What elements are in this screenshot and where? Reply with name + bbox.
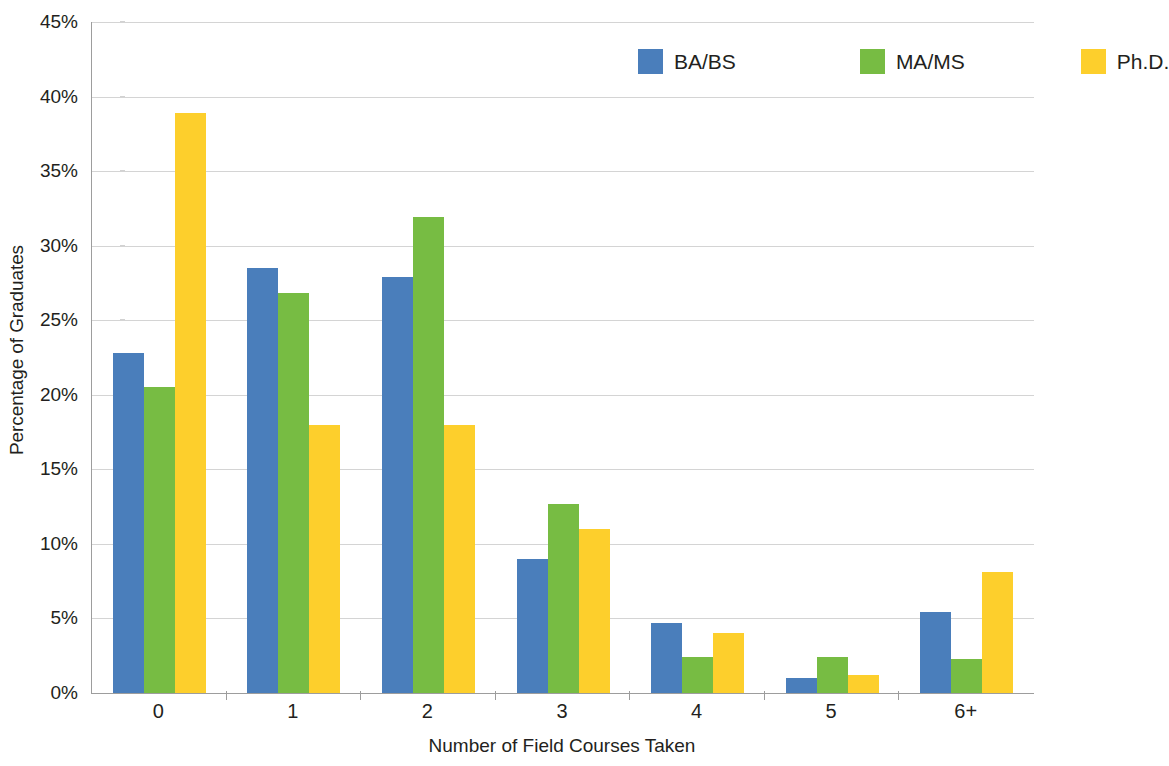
x-axis-tick-mark (629, 691, 630, 700)
bar-group (382, 22, 475, 693)
bar (817, 657, 848, 693)
y-axis-tick-label: 30% (40, 235, 78, 257)
x-axis-tick-label: 3 (556, 700, 567, 723)
x-axis-title: Number of Field Courses Taken (91, 735, 1033, 757)
bar (413, 217, 444, 693)
bar (144, 387, 175, 693)
legend-item: BA/BS (638, 49, 736, 74)
y-axis-title: Percentage of Graduates (0, 0, 34, 700)
bar (920, 612, 951, 693)
bar-group (786, 22, 879, 693)
x-axis-tick-mark (226, 691, 227, 700)
x-axis-tick-labels: 0123456+ (91, 700, 1033, 736)
x-axis-tick-mark (495, 691, 496, 700)
y-axis-tick-label: 15% (40, 458, 78, 480)
legend-item: Ph.D. (1081, 49, 1169, 74)
bar-group (920, 22, 1013, 693)
legend-label: MA/MS (896, 50, 965, 74)
y-axis-tick-label: 10% (40, 533, 78, 555)
bar (382, 277, 413, 693)
bar (982, 572, 1013, 693)
bar (951, 659, 982, 693)
bars-layer (92, 22, 1034, 693)
legend-swatch (1081, 49, 1106, 74)
y-axis-tick-label: 5% (51, 607, 78, 629)
bar-group (113, 22, 206, 693)
plot-area (91, 22, 1034, 694)
y-axis-tick-label: 0% (51, 682, 78, 704)
y-axis-tick-label: 45% (40, 11, 78, 33)
bar (247, 268, 278, 693)
bar (175, 113, 206, 693)
legend: BA/BSMA/MSPh.D. (638, 49, 1169, 74)
bar (579, 529, 610, 693)
y-axis-tick-labels: 0%5%10%15%20%25%30%35%40%45% (34, 0, 86, 766)
bar (651, 623, 682, 693)
bar (713, 633, 744, 693)
bar (682, 657, 713, 693)
x-axis-tick-label: 6+ (954, 700, 977, 723)
x-axis-tick-mark (360, 691, 361, 700)
legend-swatch (638, 49, 663, 74)
x-axis-tick-mark (898, 691, 899, 700)
bar-group (517, 22, 610, 693)
legend-label: BA/BS (674, 50, 736, 74)
bar (113, 353, 144, 693)
x-axis-tick-label: 1 (287, 700, 298, 723)
y-axis-tick-label: 40% (40, 86, 78, 108)
bar (517, 559, 548, 693)
x-axis-tick-label: 4 (691, 700, 702, 723)
legend-swatch (860, 49, 885, 74)
x-axis-tick-label: 0 (153, 700, 164, 723)
bar (848, 675, 879, 693)
x-axis-tick-label: 5 (826, 700, 837, 723)
y-axis-title-label: Percentage of Graduates (6, 245, 28, 455)
bar (786, 678, 817, 693)
bar (309, 425, 340, 693)
bar (548, 504, 579, 693)
bar (278, 293, 309, 693)
legend-item: MA/MS (860, 49, 965, 74)
y-axis-tick-label: 25% (40, 309, 78, 331)
y-axis-tick-label: 35% (40, 160, 78, 182)
bar-group (247, 22, 340, 693)
y-axis-tick-label: 20% (40, 384, 78, 406)
x-axis-tick-mark (764, 691, 765, 700)
x-axis-tick-label: 2 (422, 700, 433, 723)
bar (444, 425, 475, 693)
legend-label: Ph.D. (1117, 50, 1169, 74)
bar-group (651, 22, 744, 693)
